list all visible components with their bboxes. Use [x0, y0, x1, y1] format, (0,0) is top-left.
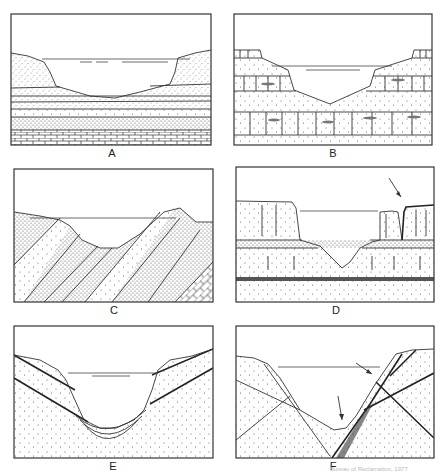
panel-d: D [236, 167, 434, 316]
panel-f: F [236, 326, 434, 472]
reservoir-water-line [272, 66, 392, 70]
stratum-shale [11, 117, 211, 130]
fractured-rock [236, 349, 434, 458]
panel-label-d: D [332, 304, 340, 316]
panel-label-b: B [329, 147, 336, 159]
dipping-beds [14, 349, 213, 458]
strata-body [234, 50, 432, 145]
panel-a: A [11, 14, 211, 159]
figure-credit: Bureau of Reclamation, 1977 [330, 466, 408, 472]
panel-label-e: E [109, 460, 116, 472]
panel-b: B [234, 14, 432, 159]
panel-c: C [14, 169, 213, 316]
panel-e: E [14, 326, 213, 472]
stratum-limestone [11, 130, 211, 145]
geologic-figure: A B [0, 0, 447, 476]
reservoir-water-line [68, 373, 158, 376]
panel-label-a: A [108, 147, 116, 159]
panel-label-c: C [110, 304, 118, 316]
stratum-sandstone [11, 109, 211, 117]
shale-layer [236, 277, 434, 281]
